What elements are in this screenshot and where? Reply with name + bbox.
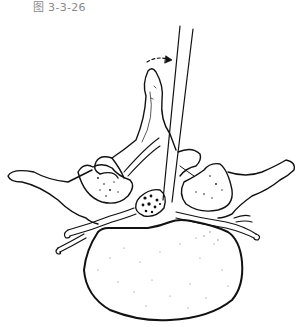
lamina — [95, 149, 201, 178]
disc-fragment — [136, 190, 166, 217]
right-transverse-process — [181, 160, 294, 218]
vertebral-body — [84, 220, 242, 320]
vertebra-illustration — [0, 0, 306, 327]
surgical-instrument — [163, 26, 193, 202]
rotation-arrow-icon — [147, 56, 172, 63]
